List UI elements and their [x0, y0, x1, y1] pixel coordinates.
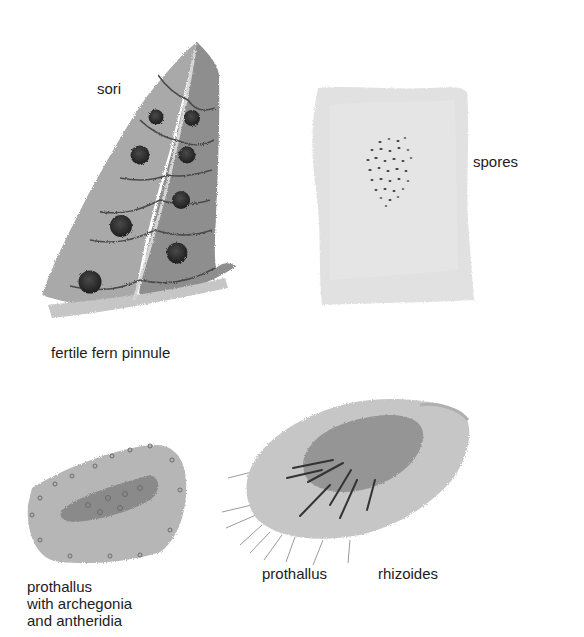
label-prothallus-archegonia: prothallus with archegonia and antheridi… — [27, 578, 167, 629]
fern-pinnule-drawing — [42, 42, 236, 318]
label-fertile-fern-pinnule: fertile fern pinnule — [51, 344, 170, 361]
label-line: and antheridia — [27, 612, 167, 629]
label-spores: spores — [473, 153, 518, 170]
label-line: prothallus — [27, 578, 167, 595]
prothallus-rhizoides-drawing — [222, 399, 469, 565]
prothallus-archegonia-drawing — [28, 444, 187, 563]
label-sori: sori — [97, 80, 121, 97]
label-line: with archegonia — [27, 595, 167, 612]
label-prothallus: prothallus — [262, 565, 327, 582]
illustration-canvas — [0, 0, 584, 637]
label-rhizoides: rhizoides — [378, 565, 438, 582]
spore-slide-drawing — [312, 87, 474, 305]
